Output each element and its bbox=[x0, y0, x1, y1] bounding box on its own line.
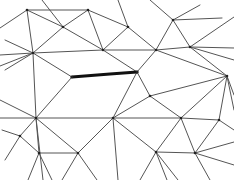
mesh-boundary-edge bbox=[5, 136, 20, 160]
mesh-vertex-I bbox=[189, 46, 192, 49]
mesh-vertex-M bbox=[35, 117, 38, 120]
mesh-vertex-P bbox=[218, 119, 221, 122]
mesh-edge-D-M bbox=[33, 53, 36, 118]
mesh-edge-M-R bbox=[36, 118, 39, 153]
mesh-vertex-H bbox=[155, 49, 158, 52]
mesh-edge-Q-R bbox=[20, 136, 39, 153]
mesh-edge-A-D bbox=[27, 10, 33, 53]
mesh-vertex-A bbox=[26, 9, 29, 12]
mesh-vertex-E bbox=[102, 49, 105, 52]
mesh-edge-G-I bbox=[173, 20, 190, 47]
triangular-mesh-diagram bbox=[0, 0, 234, 180]
mesh-vertex-C bbox=[62, 26, 65, 29]
highlighted-edge-group bbox=[72, 72, 137, 77]
mesh-edge-L-M bbox=[36, 77, 72, 118]
mesh-boundary-edge bbox=[78, 153, 97, 180]
mesh-edge-B-C bbox=[63, 10, 88, 27]
mesh-boundary-edge bbox=[0, 100, 36, 118]
mesh-edge-M-Q bbox=[20, 118, 36, 136]
mesh-boundary-edge bbox=[150, 0, 173, 20]
mesh-boundary-edge bbox=[156, 152, 167, 180]
mesh-vertex-D bbox=[32, 52, 35, 55]
mesh-vertex-K bbox=[226, 75, 229, 78]
mesh-edge-I-K bbox=[190, 47, 227, 76]
mesh-boundary-edge bbox=[0, 10, 27, 28]
mesh-boundary-edge bbox=[173, 5, 200, 20]
highlighted-edge bbox=[72, 72, 137, 77]
mesh-boundary-edge bbox=[2, 130, 20, 136]
mesh-edge-H-K bbox=[156, 50, 227, 76]
mesh-edge-B-F bbox=[88, 10, 128, 27]
mesh-edge-T-U bbox=[156, 152, 195, 153]
mesh-edge-H-I bbox=[156, 47, 190, 50]
mesh-edge-E-J bbox=[103, 50, 137, 72]
mesh-boundary-edge bbox=[219, 120, 234, 130]
mesh-vertex-W bbox=[149, 95, 152, 98]
mesh-boundary-edge bbox=[190, 47, 234, 60]
mesh-vertex-J bbox=[136, 71, 139, 74]
mesh-vertex-T bbox=[155, 151, 158, 154]
mesh-edge-A-C bbox=[27, 10, 63, 27]
mesh-edge-F-H bbox=[128, 27, 156, 50]
mesh-vertex-R bbox=[38, 152, 41, 155]
mesh-vertex-S bbox=[77, 152, 80, 155]
mesh-boundary-edge bbox=[62, 153, 78, 180]
mesh-boundary-edge bbox=[113, 118, 118, 180]
mesh-edge-G-H bbox=[156, 20, 173, 50]
mesh-boundary-edge bbox=[28, 153, 39, 180]
mesh-vertex-G bbox=[172, 19, 175, 22]
mesh-vertex-Q bbox=[19, 135, 22, 138]
mesh-edge-J-W bbox=[137, 72, 150, 96]
mesh-boundary-edge bbox=[140, 152, 156, 180]
mesh-vertex-F bbox=[127, 26, 130, 29]
mesh-boundary-edge bbox=[42, 0, 63, 27]
mesh-edge-N-T bbox=[113, 118, 156, 152]
mesh-boundary-edge bbox=[195, 142, 234, 153]
mesh-edge-D-E bbox=[33, 50, 103, 53]
mesh-edge-D-L bbox=[33, 53, 72, 77]
mesh-edge-N-S bbox=[78, 118, 113, 153]
mesh-edge-O-T bbox=[156, 118, 181, 152]
mesh-edges bbox=[20, 10, 227, 153]
mesh-boundary-edge bbox=[5, 53, 33, 70]
mesh-edge-H-J bbox=[137, 50, 156, 72]
mesh-boundary-edge bbox=[5, 40, 33, 53]
mesh-vertex-L bbox=[71, 76, 74, 79]
mesh-edge-W-O bbox=[150, 96, 181, 118]
mesh-edge-M-S bbox=[36, 118, 78, 153]
mesh-boundary-edge bbox=[39, 153, 52, 180]
mesh-vertex-O bbox=[180, 117, 183, 120]
mesh-vertex-U bbox=[194, 152, 197, 155]
mesh-boundary-edge bbox=[156, 152, 178, 180]
mesh-boundary-edge bbox=[190, 17, 234, 47]
mesh-boundary-edge bbox=[190, 47, 234, 48]
mesh-edge-P-U bbox=[195, 120, 219, 153]
mesh-edge-O-P bbox=[181, 118, 219, 120]
mesh-edge-O-U bbox=[181, 118, 195, 153]
mesh-edge-C-D bbox=[33, 27, 63, 53]
mesh-edge-C-E bbox=[63, 27, 103, 50]
mesh-vertex-N bbox=[112, 117, 115, 120]
mesh-boundary-edge bbox=[173, 18, 222, 20]
mesh-edge-F-E bbox=[103, 27, 128, 50]
mesh-vertex-B bbox=[87, 9, 90, 12]
mesh-edge-B-E bbox=[88, 10, 103, 50]
